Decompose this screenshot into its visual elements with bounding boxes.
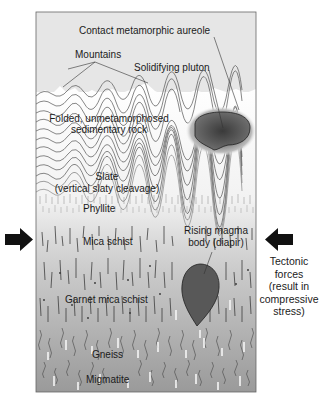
label-diapir-2: body (diapir): [188, 237, 244, 248]
label-diapir-1: Rising magma: [184, 225, 248, 236]
cross-section-figure: [0, 0, 331, 403]
caption-line: (result in: [260, 280, 319, 293]
label-garnet-mica-schist: Garnet mica schist: [65, 294, 148, 305]
label-pluton: Solidifying pluton: [134, 62, 210, 73]
label-migmatite: Migmatite: [86, 374, 129, 385]
label-sedimentary-2: sedimentary rock: [71, 124, 147, 135]
label-mica-schist: Mica schist: [83, 236, 132, 247]
caption-line: forces: [260, 268, 319, 281]
label-slate-1: Slate: [96, 171, 119, 182]
label-slate-2: (vertical slaty cleavage): [55, 183, 159, 194]
caption-line: stress): [260, 305, 319, 318]
label-phyllite: Phyllite: [83, 203, 115, 214]
label-sedimentary-1: Folded, unmetamorphosed: [49, 113, 169, 124]
caption-line: compressive: [260, 293, 319, 306]
arrow-right-icon: [5, 228, 33, 251]
label-aureole: Contact metamorphic aureole: [79, 25, 210, 36]
caption-line: Tectonic: [260, 255, 319, 268]
sky-region: [36, 12, 256, 92]
tectonic-forces-caption: Tectonic forces (result in compressive s…: [260, 255, 319, 318]
label-gneiss: Gneiss: [92, 349, 123, 360]
label-mountains: Mountains: [75, 49, 121, 60]
arrow-left-icon: [265, 228, 293, 251]
